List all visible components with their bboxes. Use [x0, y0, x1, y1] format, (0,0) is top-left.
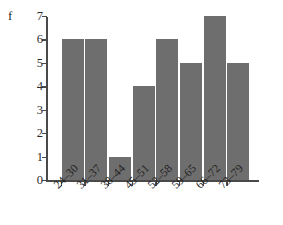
bar — [204, 16, 226, 180]
y-tick-label: 2 — [37, 127, 43, 140]
y-tick-label: 4 — [37, 80, 43, 93]
bar-chart-figure: f 01234567 24–3031–3738–4445–5152–5859–6… — [0, 0, 283, 225]
bar-series — [46, 12, 259, 180]
bar — [85, 39, 107, 180]
y-tick-label: 0 — [37, 174, 43, 187]
y-tick-label: 6 — [37, 33, 43, 46]
x-axis-tick-labels: 24–3031–3738–4445–5152–5859–6566–7273–79 — [46, 183, 268, 225]
y-tick-label: 3 — [37, 103, 43, 116]
plot-area: 01234567 — [46, 12, 268, 181]
bar — [62, 39, 84, 180]
y-tick-label: 7 — [37, 10, 43, 23]
y-axis-title: f — [8, 9, 12, 22]
bar — [156, 39, 178, 180]
y-tick-label: 5 — [37, 56, 43, 69]
y-tick-label: 1 — [37, 150, 43, 163]
